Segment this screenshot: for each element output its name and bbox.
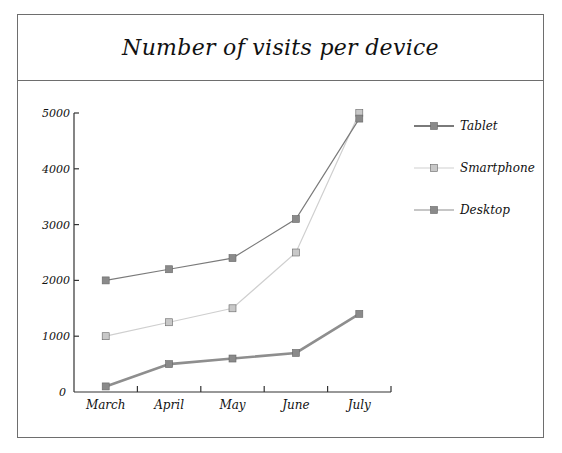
data-point-marker — [229, 355, 236, 362]
data-point-marker — [356, 115, 363, 122]
line-chart: 010002000300040005000MarchAprilMayJuneJu… — [0, 0, 562, 453]
legend-item-smartphone: Smartphone — [414, 161, 535, 175]
y-tick-label: 2000 — [41, 274, 70, 287]
x-tick-label: May — [218, 398, 245, 412]
legend-marker — [431, 207, 438, 214]
legend: TabletSmartphoneDesktop — [414, 119, 535, 217]
legend-label: Smartphone — [460, 161, 535, 175]
data-point-marker — [102, 333, 109, 340]
series-smartphone — [102, 110, 363, 340]
legend-label: Tablet — [460, 119, 498, 133]
axes: 010002000300040005000MarchAprilMayJuneJu… — [41, 107, 391, 412]
x-tick-label: July — [345, 398, 371, 412]
y-tick-label: 0 — [59, 386, 66, 399]
data-point-marker — [292, 216, 299, 223]
legend-label: Desktop — [459, 203, 510, 217]
y-tick-label: 1000 — [42, 330, 70, 343]
data-point-marker — [356, 310, 363, 317]
x-tick-label: March — [85, 398, 126, 412]
series-line — [106, 113, 360, 336]
data-point-marker — [292, 249, 299, 256]
y-tick-label: 5000 — [42, 107, 70, 120]
series-tablet — [102, 115, 363, 284]
data-point-marker — [292, 349, 299, 356]
x-tick-label: April — [153, 398, 184, 412]
legend-marker — [431, 123, 438, 130]
x-tick-label: June — [279, 398, 309, 412]
y-tick-label: 4000 — [41, 163, 70, 176]
data-point-marker — [166, 266, 173, 273]
series-line — [106, 314, 360, 387]
data-point-marker — [102, 383, 109, 390]
data-point-marker — [166, 361, 173, 368]
legend-item-tablet: Tablet — [414, 119, 498, 133]
legend-item-desktop: Desktop — [414, 203, 510, 217]
series-lines — [102, 110, 363, 390]
data-point-marker — [229, 305, 236, 312]
y-tick-label: 3000 — [42, 219, 70, 232]
data-point-marker — [229, 255, 236, 262]
data-point-marker — [166, 319, 173, 326]
data-point-marker — [102, 277, 109, 284]
series-desktop — [102, 310, 363, 390]
legend-marker — [431, 165, 438, 172]
